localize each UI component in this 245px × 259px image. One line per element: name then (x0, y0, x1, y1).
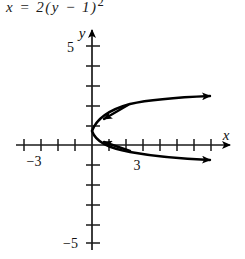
coordinate-plane: x y 5 −5 −3 3 (0, 0, 245, 259)
axes-group (16, 30, 230, 250)
figure-container: x = 2(y − 1)2 (0, 0, 245, 259)
parabola-upper-branch (92, 96, 210, 131)
y-axis-label: y (77, 25, 86, 41)
y-tick-label-5: 5 (67, 40, 74, 55)
x-tick-label-3: 3 (134, 158, 141, 173)
x-axis-label: x (222, 127, 230, 143)
y-tick-label-neg5: −5 (63, 236, 78, 251)
x-tick-label-neg3: −3 (27, 154, 42, 169)
